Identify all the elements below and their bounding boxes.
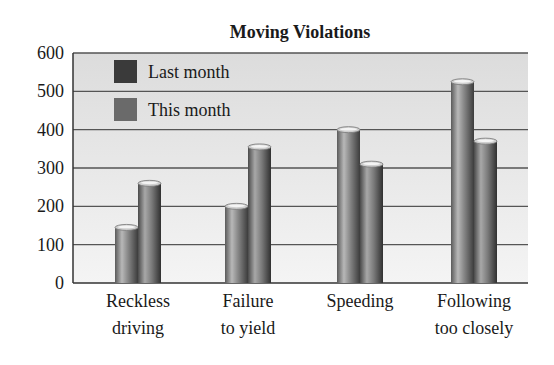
y-tick-label: 100 — [37, 235, 64, 255]
bar-this-month — [138, 180, 161, 283]
bar-last-month — [225, 203, 248, 283]
x-category-label: Reckless — [106, 291, 170, 311]
y-tick-label: 200 — [37, 196, 64, 216]
bar-last-month — [337, 127, 360, 283]
y-tick-label: 400 — [37, 120, 64, 140]
y-tick-label: 600 — [37, 43, 64, 63]
x-category-label: Speeding — [327, 291, 394, 311]
legend-swatch — [114, 60, 137, 83]
x-category-label: Following — [437, 291, 511, 311]
x-category-label: driving — [112, 318, 164, 338]
bar-this-month — [360, 161, 383, 283]
chart-title: Moving Violations — [230, 22, 371, 42]
legend-swatch — [114, 98, 137, 121]
bar-last-month — [451, 79, 474, 283]
bar-last-month — [115, 224, 138, 283]
x-category-label: too closely — [435, 318, 514, 338]
bar-this-month — [474, 138, 497, 283]
bar-chart: Moving Violations 0100200300400500600 Re… — [0, 0, 554, 365]
y-tick-label: 0 — [55, 273, 64, 293]
bar-this-month — [248, 144, 271, 283]
y-tick-label: 500 — [37, 81, 64, 101]
x-category-label: to yield — [221, 318, 276, 338]
x-category-label: Failure — [223, 291, 274, 311]
y-tick-label: 300 — [37, 158, 64, 178]
legend-label: Last month — [148, 62, 230, 82]
legend-label: This month — [148, 100, 231, 120]
